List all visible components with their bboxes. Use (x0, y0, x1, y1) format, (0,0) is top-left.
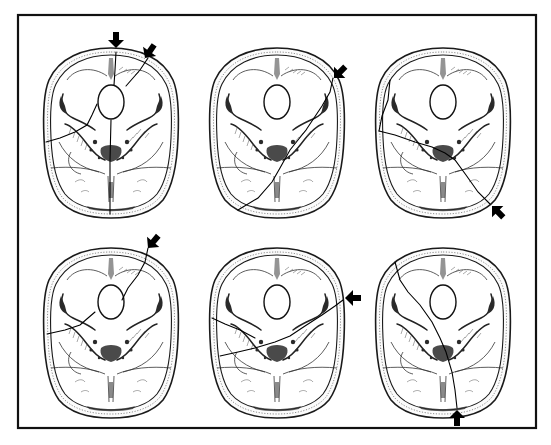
skull-fracture-figure (0, 0, 551, 445)
panel-2-skull (210, 48, 351, 218)
panel-3-skull (376, 48, 511, 223)
central-oval (264, 85, 290, 119)
central-oval (430, 285, 456, 319)
impact-arrow-icon (142, 231, 165, 254)
panel-4-skull (44, 231, 179, 418)
central-oval (98, 85, 124, 119)
central-oval (98, 285, 124, 319)
central-oval (430, 85, 456, 119)
impact-arrow-icon (108, 32, 124, 48)
panel-5-skull (210, 248, 361, 418)
impact-arrow-icon (345, 290, 361, 306)
panel-1-skull (44, 32, 179, 218)
panel-6-skull (376, 248, 511, 426)
central-oval (264, 285, 290, 319)
